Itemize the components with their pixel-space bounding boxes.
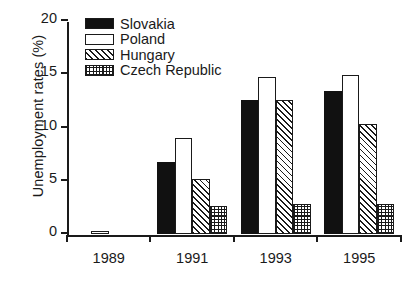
- legend-item-hungary: Hungary: [85, 47, 222, 63]
- legend: SlovakiaPolandHungaryCzech Republic: [85, 16, 222, 78]
- chart-figure: Unemployment rates (%) 05101520 19891991…: [0, 0, 419, 287]
- x-tick-end: [400, 235, 402, 242]
- y-tick-label-15: 15: [41, 63, 57, 79]
- x-tick-label-1995: 1995: [324, 250, 394, 266]
- bar-poland-1995: [342, 75, 360, 234]
- y-tick-label-20: 20: [41, 10, 57, 26]
- y-tick-label-10: 10: [41, 117, 57, 133]
- legend-item-poland: Poland: [85, 32, 222, 48]
- y-tick-5: 5: [61, 179, 68, 181]
- y-tick-10: 10: [61, 126, 68, 128]
- legend-label-hungary: Hungary: [120, 47, 175, 63]
- bar-hungary-1995: [359, 124, 377, 234]
- x-tick-label-1993: 1993: [241, 250, 311, 266]
- legend-swatch-hungary: [85, 49, 114, 60]
- bar-poland-1991: [175, 138, 193, 234]
- y-tick-15: 15: [61, 72, 68, 74]
- y-tick-label-0: 0: [49, 223, 57, 239]
- bar-hungary-1991: [192, 179, 210, 234]
- bar-slovakia-1995: [324, 91, 342, 234]
- bar-hungary-1993: [276, 100, 294, 234]
- legend-label-slovakia: Slovakia: [120, 16, 175, 32]
- y-tick-0: 0: [61, 232, 68, 234]
- legend-item-slovakia: Slovakia: [85, 16, 222, 32]
- x-tick-label-1991: 1991: [157, 250, 227, 266]
- bar-poland-1993: [258, 77, 276, 234]
- x-tick-1993: [233, 235, 235, 242]
- x-tick-1991: [149, 235, 151, 242]
- bar-czech-republic-1991: [210, 206, 228, 234]
- legend-label-czech-republic: Czech Republic: [120, 62, 222, 78]
- legend-swatch-poland: [85, 34, 114, 45]
- legend-swatch-slovakia: [85, 18, 114, 29]
- bar-czech-republic-1995: [377, 204, 395, 234]
- legend-label-poland: Poland: [120, 31, 165, 47]
- y-tick-label-5: 5: [49, 170, 57, 186]
- y-tick-20: 20: [61, 19, 68, 21]
- bar-poland-1989: [91, 231, 109, 234]
- y-axis-line: [67, 22, 69, 237]
- x-tick-1995: [316, 235, 318, 242]
- legend-swatch-czech-republic: [85, 65, 114, 76]
- x-tick-label-1989: 1989: [74, 250, 144, 266]
- bar-slovakia-1991: [157, 162, 175, 234]
- x-tick-1989: [66, 235, 68, 242]
- legend-item-czech-republic: Czech Republic: [85, 63, 222, 79]
- bar-czech-republic-1993: [293, 204, 311, 234]
- bar-slovakia-1993: [241, 100, 259, 234]
